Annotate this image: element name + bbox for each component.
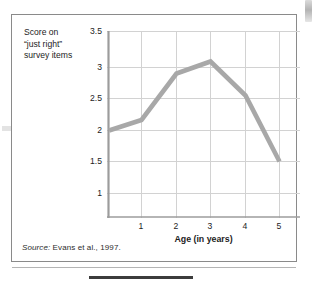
- scan-artifact-icon: [305, 0, 312, 22]
- y-tick-label-1: 1: [78, 188, 102, 198]
- figure-root: Score on “just right” survey items 3.5 3…: [0, 0, 326, 287]
- y-tick-label-2_5: 2.5: [78, 93, 102, 103]
- x-tick-label-2: 2: [168, 221, 184, 231]
- gridlines-horizontal: [107, 32, 300, 194]
- plot-area: [107, 31, 300, 218]
- y-tick-label-2: 2: [78, 125, 102, 135]
- source-note: Source: Evans et al., 1997.: [22, 243, 121, 252]
- data-line-series-1: [109, 62, 280, 162]
- y-axis-caption-line-3: survey items: [24, 50, 72, 62]
- x-tick-label-1: 1: [133, 221, 149, 231]
- x-tick-label-5: 5: [271, 221, 287, 231]
- y-axis-caption-line-1: Score on: [24, 27, 72, 39]
- source-value: Evans et al., 1997.: [50, 243, 121, 252]
- y-axis-caption: Score on “just right” survey items: [24, 27, 72, 62]
- bottom-bar: [89, 276, 193, 279]
- y-tick-label-3_5: 3.5: [78, 26, 102, 36]
- source-label: Source:: [22, 243, 50, 252]
- x-axis-title: Age (in years): [107, 234, 300, 244]
- x-tick-label-3: 3: [202, 221, 218, 231]
- line-chart-svg: [107, 31, 300, 218]
- y-tick-label-1_5: 1.5: [78, 156, 102, 166]
- y-tick-label-3: 3: [78, 62, 102, 72]
- bottom-divider: [12, 267, 296, 268]
- scan-smudge-icon: [2, 126, 11, 131]
- y-axis-caption-line-2: “just right”: [24, 39, 72, 51]
- x-tick-label-4: 4: [237, 221, 253, 231]
